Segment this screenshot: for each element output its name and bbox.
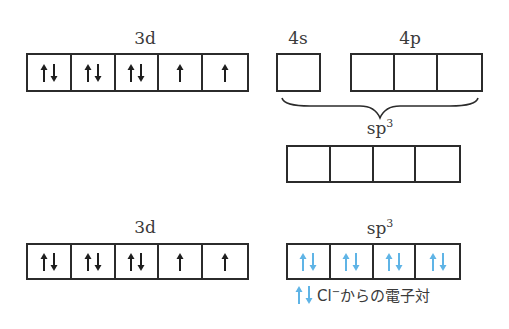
down-arrow-icon bbox=[395, 253, 403, 271]
bottom-3d-label: 3d bbox=[125, 217, 165, 237]
up-arrow-icon bbox=[127, 253, 135, 271]
orbital-box bbox=[331, 245, 374, 278]
top-3d-label: 3d bbox=[125, 28, 165, 48]
up-arrow-icon bbox=[40, 64, 48, 82]
orbital-box bbox=[288, 147, 331, 181]
orbital-box bbox=[416, 147, 459, 181]
orbital-box bbox=[416, 245, 459, 278]
orbital-box bbox=[116, 245, 160, 278]
orbital-box bbox=[203, 55, 247, 90]
up-arrow-icon bbox=[342, 253, 350, 271]
up-arrow-icon bbox=[221, 64, 229, 82]
orbital-box bbox=[28, 245, 72, 278]
orbital-box bbox=[203, 245, 247, 278]
up-arrow-icon bbox=[40, 253, 48, 271]
legend: Cl−からの電子対 bbox=[295, 284, 430, 305]
orbital-box bbox=[352, 55, 395, 90]
top-sp3-orbitals bbox=[286, 145, 461, 183]
orbital-box bbox=[395, 55, 438, 90]
down-arrow-icon bbox=[352, 253, 360, 271]
up-arrow-icon bbox=[299, 253, 307, 271]
orbital-box bbox=[159, 245, 203, 278]
sp3-sup: 3 bbox=[386, 117, 393, 130]
orbital-box bbox=[374, 147, 417, 181]
down-arrow-icon bbox=[439, 253, 447, 271]
up-arrow-icon bbox=[429, 253, 437, 271]
legend-text: Cl−からの電子対 bbox=[317, 284, 430, 305]
sp3-text: sp bbox=[367, 218, 387, 238]
orbital-box bbox=[438, 55, 481, 90]
orbital-box bbox=[374, 245, 417, 278]
up-arrow-icon bbox=[176, 253, 184, 271]
down-arrow-icon bbox=[309, 253, 317, 271]
orbital-box bbox=[159, 55, 203, 90]
up-arrow-icon bbox=[295, 286, 303, 304]
up-arrow-icon bbox=[385, 253, 393, 271]
down-arrow-icon bbox=[94, 64, 102, 82]
orbital-box bbox=[72, 245, 116, 278]
orbital-box bbox=[331, 147, 374, 181]
top-4p-orbitals bbox=[350, 53, 483, 92]
top-4s-label: 4s bbox=[278, 28, 318, 48]
donated-electron-pair-icon bbox=[295, 286, 313, 304]
down-arrow-icon bbox=[94, 253, 102, 271]
up-arrow-icon bbox=[221, 253, 229, 271]
orbital-box bbox=[288, 245, 331, 278]
bottom-sp3-label: sp3 bbox=[350, 217, 410, 238]
sp3-text: sp bbox=[367, 118, 387, 138]
orbital-box bbox=[278, 55, 319, 90]
up-arrow-icon bbox=[176, 64, 184, 82]
orbital-box bbox=[116, 55, 160, 90]
up-arrow-icon bbox=[84, 64, 92, 82]
up-arrow-icon bbox=[127, 64, 135, 82]
bottom-sp3-orbitals bbox=[286, 243, 461, 280]
down-arrow-icon bbox=[137, 64, 145, 82]
bottom-3d-orbitals bbox=[26, 243, 249, 280]
down-arrow-icon bbox=[50, 64, 58, 82]
top-sp3-label: sp3 bbox=[350, 117, 410, 138]
up-arrow-icon bbox=[84, 253, 92, 271]
orbital-box bbox=[28, 55, 72, 90]
down-arrow-icon bbox=[305, 286, 313, 304]
top-4p-label: 4p bbox=[390, 28, 430, 48]
down-arrow-icon bbox=[50, 253, 58, 271]
down-arrow-icon bbox=[137, 253, 145, 271]
orbital-box bbox=[72, 55, 116, 90]
top-3d-orbitals bbox=[26, 53, 249, 92]
top-4s-orbital bbox=[276, 53, 321, 92]
sp3-sup: 3 bbox=[386, 217, 393, 230]
